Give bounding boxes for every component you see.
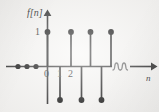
stem-marker (108, 29, 114, 35)
sample-marker (33, 64, 38, 69)
y-tick-label-1: 1 (35, 27, 40, 37)
stem-marker (99, 97, 105, 103)
x-tick-label-0: 0 (44, 69, 49, 79)
stem-marker (88, 29, 94, 35)
y-axis-label: f[n] (27, 8, 43, 18)
y-axis-arrowhead (44, 10, 52, 17)
zero-sample-markers (15, 64, 38, 69)
stem-marker (68, 29, 74, 35)
stem-plot-figure: f[n] 1 0 1 2 n (0, 0, 159, 112)
stem-marker (45, 29, 51, 35)
x-axis-arrowhead (151, 63, 158, 71)
positive-stems (45, 29, 114, 66)
x-tick-label-2: 2 (68, 69, 73, 79)
axis-break-icon (113, 63, 128, 70)
sample-marker (24, 64, 29, 69)
stem-plot-canvas (0, 0, 159, 112)
stem-marker (79, 97, 85, 103)
negative-stems (57, 67, 104, 103)
sample-marker (15, 64, 20, 69)
x-tick-label-1: 1 (57, 69, 62, 79)
stem-marker (57, 97, 63, 103)
x-axis-label: n (146, 74, 151, 83)
